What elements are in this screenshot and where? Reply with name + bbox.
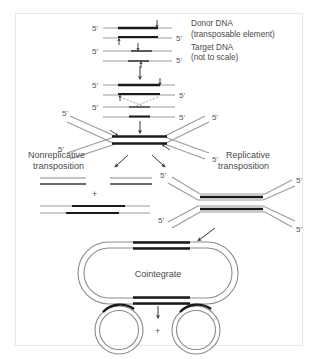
prime-label: 5'	[296, 176, 302, 185]
prime-label: 5'	[176, 34, 182, 43]
label-nonreplicative-transposition: Nonreplicative transposition	[28, 150, 85, 171]
nonreplicative-line2: transposition	[33, 161, 84, 171]
prime-label: 5'	[296, 225, 302, 234]
prime-label: 5'	[92, 103, 98, 112]
prime-label: 5'	[179, 91, 185, 100]
figure-frame	[16, 14, 303, 346]
cointegrate-label: Cointegrate	[135, 269, 182, 279]
transposition-diagram: 5' 5' 5' 5' Donor DNA (transposable elem…	[0, 0, 318, 359]
replicative-line2: transposition	[218, 161, 269, 171]
prime-label: 5'	[212, 113, 218, 122]
nonreplicative-line1: Nonreplicative	[28, 150, 85, 160]
prime-label: 5'	[160, 171, 166, 180]
legend-target: Target DNA (not to scale)	[191, 43, 239, 62]
donor-dna-label: Donor DNA	[191, 19, 233, 28]
prime-label: 5'	[176, 56, 182, 65]
target-dna-label: Target DNA	[191, 43, 234, 52]
prime-label: 5'	[179, 113, 185, 122]
prime-label: 5'	[92, 81, 98, 90]
replicative-line1: Replicative	[226, 150, 270, 160]
plus-sign-left: +	[92, 189, 97, 199]
figure-container: 5' 5' 5' 5' Donor DNA (transposable elem…	[0, 0, 318, 359]
prime-label: 5'	[92, 47, 98, 56]
plus-sign-bottom: +	[155, 326, 160, 336]
label-replicative-transposition: Replicative transposition	[218, 150, 270, 171]
donor-dna-sublabel: (transposable element)	[191, 30, 275, 39]
prime-label: 5'	[158, 216, 164, 225]
prime-label: 5'	[62, 109, 68, 118]
target-dna-sublabel: (not to scale)	[191, 53, 239, 62]
prime-label: 5'	[92, 24, 98, 33]
